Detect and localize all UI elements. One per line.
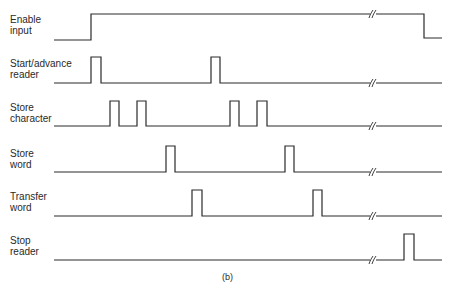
waveform-enable-input — [54, 10, 442, 40]
waveforms — [0, 0, 456, 294]
waveform-transfer-word — [54, 190, 442, 220]
waveform-stop-reader — [54, 234, 442, 264]
signal-label: Store word — [10, 148, 34, 170]
waveform-start-advance-reader — [54, 57, 442, 87]
waveform-store-character — [54, 101, 442, 130]
signal-label: Stop reader — [10, 235, 39, 257]
figure-caption: (b) — [222, 272, 233, 282]
signal-label: Start/advance reader — [10, 58, 72, 80]
waveform-store-word — [54, 146, 442, 176]
signal-label: Store character — [10, 102, 52, 124]
signal-label: Enable input — [10, 14, 41, 36]
signal-label: Transfer word — [10, 191, 47, 213]
